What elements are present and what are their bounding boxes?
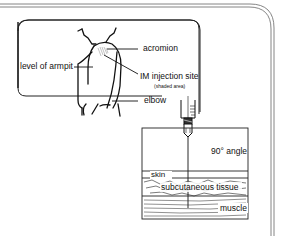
label-muscle: muscle — [220, 203, 247, 213]
label-subcutaneous-tissue: subcutaneous tissue — [161, 182, 239, 192]
arm-illustration — [78, 28, 121, 116]
label-shaded-area: (shaded area) — [154, 83, 185, 89]
im-injection-diagram: acromion level of armpit IM injection si… — [0, 0, 284, 236]
leader-lines — [74, 49, 138, 101]
label-angle: 90° angle — [211, 146, 247, 156]
label-skin: skin — [151, 170, 165, 179]
label-acromion: acromion — [143, 43, 178, 53]
label-injection-site: IM injection site — [140, 71, 199, 81]
im-site-shading — [98, 47, 108, 56]
label-elbow: elbow — [144, 95, 167, 105]
label-armpit: level of armpit — [20, 61, 74, 71]
outer-frame — [0, 4, 274, 236]
